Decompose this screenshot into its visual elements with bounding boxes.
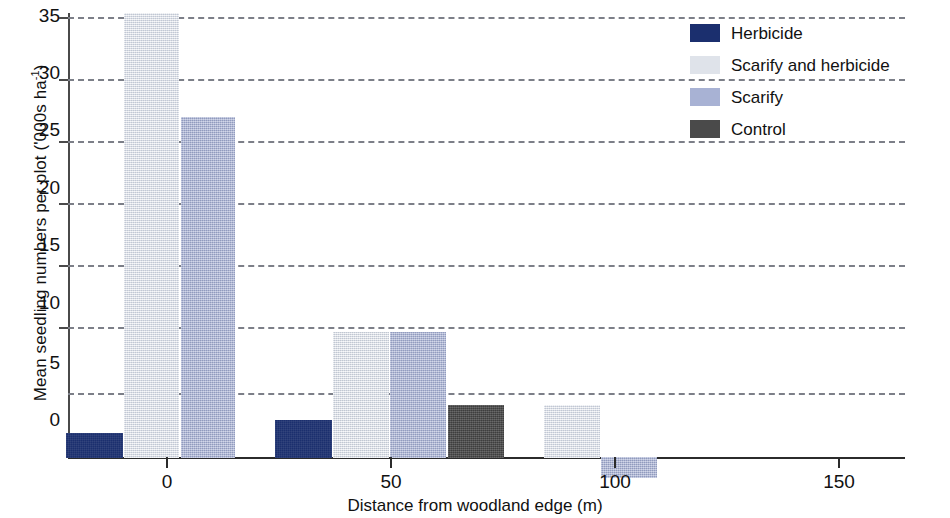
y-tick-mark-15 (59, 265, 68, 267)
bar-scarify-0m[interactable] (181, 117, 235, 458)
legend-label-scarify: Scarify (731, 89, 783, 106)
y-tick-mark-35 (59, 17, 68, 19)
legend-label-control: Control (731, 121, 786, 138)
y-tick-label-15: 15 (18, 235, 60, 254)
legend-item-control[interactable]: Control (690, 120, 890, 138)
chart-legend: Herbicide Scarify and herbicide Scarify … (690, 24, 890, 152)
y-tick-mark-10 (59, 327, 68, 329)
x-tick-label-150: 150 (799, 472, 879, 492)
legend-swatch-control (690, 120, 720, 138)
y-tick-label-0: 0 (18, 410, 60, 429)
bar-herbicide-50m[interactable] (275, 420, 332, 458)
legend-swatch-scarify (690, 88, 720, 106)
y-tick-mark-20 (59, 203, 68, 205)
legend-item-scarify-and-herbicide[interactable]: Scarify and herbicide (690, 56, 890, 74)
bar-control-50m[interactable] (448, 405, 504, 458)
y-axis-title: Mean seedling numbers per plot ('000s ha… (29, 23, 51, 443)
x-tick-label-50: 50 (351, 472, 431, 492)
y-tick-label-10: 10 (18, 293, 60, 312)
chart-figure: Mean seedling numbers per plot ('000s ha… (0, 0, 950, 518)
bar-scarify-and-herbicide-0m[interactable] (124, 13, 179, 458)
legend-label-herbicide: Herbicide (731, 25, 803, 42)
legend-item-herbicide[interactable]: Herbicide (690, 24, 890, 42)
legend-item-scarify[interactable]: Scarify (690, 88, 890, 106)
x-tick-mark-50 (390, 457, 392, 468)
y-tick-label-20: 20 (18, 178, 60, 197)
x-tick-mark-0 (166, 457, 168, 468)
legend-label-scarify-and-herbicide: Scarify and herbicide (731, 57, 890, 74)
bar-herbicide-0m[interactable] (66, 433, 123, 458)
y-tick-mark-30 (59, 79, 68, 81)
y-tick-label-35: 35 (18, 6, 60, 25)
legend-swatch-scarify-and-herbicide (690, 56, 720, 74)
gridline-35 (68, 17, 905, 19)
x-axis-title: Distance from woodland edge (m) (0, 496, 950, 516)
y-tick-label-30: 30 (18, 63, 60, 82)
bar-scarify-50m[interactable] (390, 332, 446, 458)
x-tick-mark-150 (838, 457, 840, 468)
y-tick-label-5: 5 (18, 353, 60, 372)
x-tick-label-0: 0 (127, 472, 207, 492)
y-tick-mark-25 (59, 141, 68, 143)
x-tick-label-100: 100 (575, 472, 655, 492)
bar-scarify-and-herbicide-100m[interactable] (544, 405, 600, 458)
y-tick-label-25: 25 (18, 120, 60, 139)
bar-scarify-and-herbicide-50m[interactable] (333, 332, 389, 458)
x-tick-mark-100 (614, 457, 616, 468)
legend-swatch-herbicide (690, 24, 720, 42)
